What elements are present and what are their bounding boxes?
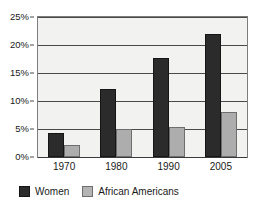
y-tick-mark xyxy=(30,17,34,18)
y-tick-label: 20% xyxy=(10,40,29,50)
bar-women-1970 xyxy=(48,133,64,157)
legend-entry-african-americans[interactable]: African Americans xyxy=(82,186,179,197)
legend-entry-women[interactable]: Women xyxy=(19,186,69,197)
chart-legend: WomenAfrican Americans xyxy=(19,186,179,197)
x-tick-label: 1990 xyxy=(158,160,180,174)
bar-african-americans-1970 xyxy=(64,145,80,157)
y-axis: 0%5%10%15%20%25% xyxy=(0,16,34,158)
x-tick-label: 2005 xyxy=(210,160,232,174)
bar-group-1980 xyxy=(90,17,142,157)
bar-african-americans-1990 xyxy=(169,127,185,157)
bar-women-1980 xyxy=(100,89,116,157)
y-tick-label: 15% xyxy=(10,68,29,78)
x-tick-label: 1970 xyxy=(53,160,75,174)
y-tick-mark xyxy=(30,73,34,74)
x-tick-label: 1980 xyxy=(105,160,127,174)
y-tick-label: 10% xyxy=(10,96,29,106)
y-tick-label: 25% xyxy=(10,12,29,22)
bar-group-1990 xyxy=(143,17,195,157)
y-tick-label: 5% xyxy=(15,124,29,134)
legend-swatch-icon xyxy=(19,186,30,197)
y-tick-label: 0% xyxy=(15,152,29,162)
legend-swatch-icon xyxy=(82,186,93,197)
legend-label: Women xyxy=(35,186,69,197)
bar-african-americans-2005 xyxy=(221,112,237,157)
bar-group-1970 xyxy=(38,17,90,157)
bar-african-americans-1980 xyxy=(116,129,132,157)
y-tick-mark xyxy=(30,101,34,102)
gridline-0 xyxy=(38,157,247,158)
y-tick-mark xyxy=(30,45,34,46)
bar-women-2005 xyxy=(205,34,221,157)
y-tick-mark xyxy=(30,157,34,158)
bar-women-1990 xyxy=(153,58,169,157)
y-tick-mark xyxy=(30,129,34,130)
bar-chart-figure: 0%5%10%15%20%25% 1970198019902005 WomenA… xyxy=(0,0,263,210)
x-axis: 1970198019902005 xyxy=(37,160,248,176)
plot-inner xyxy=(38,17,247,157)
plot-area xyxy=(37,16,248,158)
legend-label: African Americans xyxy=(98,186,179,197)
bar-group-2005 xyxy=(195,17,247,157)
